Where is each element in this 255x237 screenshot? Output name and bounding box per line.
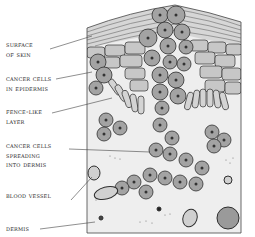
skin-cross-section-illustration <box>0 0 255 237</box>
dermis-region <box>87 0 242 237</box>
